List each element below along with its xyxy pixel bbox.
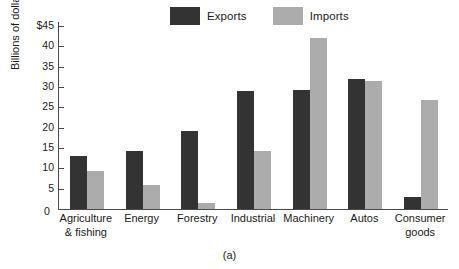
y-axis-title: Billions of dollars (9, 0, 21, 70)
bar-exports (237, 91, 254, 209)
bar-imports (421, 100, 438, 209)
bar-imports (310, 38, 327, 209)
y-tick-label: 10 (42, 161, 54, 174)
bar-exports (348, 79, 365, 209)
y-tick-label: 20 (42, 121, 54, 134)
bar-exports (293, 90, 310, 209)
y-tick-label: 35 (42, 60, 54, 73)
bar-exports (126, 151, 143, 209)
y-tick-label: 5 (48, 182, 54, 195)
y-tick-label: 15 (42, 141, 54, 154)
y-tick-label: $45 (36, 19, 54, 32)
bar-group (403, 22, 439, 209)
origin-zero-label: 0 (44, 205, 50, 217)
figure-caption: (a) (0, 249, 459, 261)
legend-label-imports: Imports (310, 10, 349, 22)
bar-exports (181, 131, 198, 209)
bar-group (292, 22, 328, 209)
x-axis-labels: Agriculture & fishingEnergyForestryIndus… (58, 212, 448, 246)
bar-group (347, 22, 383, 209)
y-tick-label: 30 (42, 80, 54, 93)
bar-imports (87, 171, 104, 209)
legend-label-exports: Exports (207, 10, 247, 22)
x-axis-label: Consumer goods (386, 212, 454, 239)
y-tick-label: 25 (42, 100, 54, 113)
bar-group (180, 22, 216, 209)
bar-group (125, 22, 161, 209)
x-axis-line (58, 209, 448, 210)
bar-imports (254, 151, 271, 209)
bar-exports (404, 197, 421, 209)
bar-exports (70, 156, 87, 209)
plot-area: 510152025303540$45 Billions of dollars (58, 22, 448, 210)
bar-imports (198, 203, 215, 209)
bar-chart-figure: Exports Imports 510152025303540$45 Billi… (0, 0, 459, 269)
bar-imports (143, 185, 160, 209)
bar-series-container (59, 22, 448, 209)
y-tick-label: 40 (42, 39, 54, 52)
bar-imports (365, 81, 382, 209)
bar-group (69, 22, 105, 209)
bar-group (236, 22, 272, 209)
